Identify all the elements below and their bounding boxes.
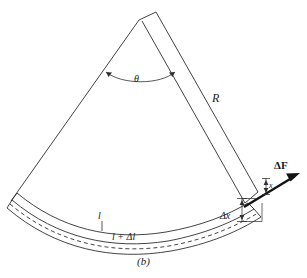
angle-arc-double-arrow <box>106 72 175 82</box>
distance-label-x: x <box>269 182 273 190</box>
figure-caption: (b) <box>137 256 150 267</box>
radius-label-R: R <box>212 92 219 104</box>
figure-drawing <box>0 0 307 278</box>
right-radial-edge-inner <box>142 21 245 203</box>
angle-arrowhead-right <box>169 72 175 77</box>
thickness-label-delta-x: Δx <box>220 211 230 221</box>
left-end-cap-lower <box>7 200 12 208</box>
angle-arrowhead-left <box>106 72 112 77</box>
figure-container: θ R ΔF x Δx l l + Δl (b) <box>0 0 307 278</box>
angle-arrowheads <box>106 72 175 77</box>
arc-label-l: l <box>98 211 101 221</box>
left-end-cap-upper <box>12 193 17 200</box>
right-radial-edge-outer <box>156 12 258 192</box>
angle-label-theta: θ <box>134 74 139 84</box>
force-label-delta-f: ΔF <box>274 160 288 171</box>
left-radial-edge <box>11 20 139 201</box>
strip-top-cap <box>139 12 156 20</box>
angle-arc <box>106 72 175 82</box>
arc-label-l-plus-delta-l: l + Δl <box>112 232 135 242</box>
force-arrow <box>244 173 300 207</box>
right-end-cap-lower <box>254 209 261 217</box>
